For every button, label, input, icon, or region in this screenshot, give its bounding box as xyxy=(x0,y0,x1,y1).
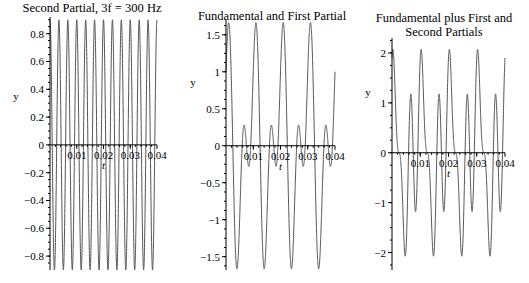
x-tick-label: 0.03 xyxy=(298,150,318,162)
charts-figure: Second Partial, 3f = 300 Hz−0.8−0.6−0.4−… xyxy=(0,0,529,283)
y-axis-label: y xyxy=(13,90,19,102)
y-tick-label: 0 xyxy=(381,147,387,159)
x-tick-label: 0.04 xyxy=(147,149,167,161)
chart-title: Fundamental and First Partial xyxy=(198,9,347,23)
y-tick-label: 0 xyxy=(215,140,221,152)
y-tick-label: −0.2 xyxy=(24,167,44,179)
y-tick-label: −0.8 xyxy=(24,250,44,262)
chart-title: Second Partials xyxy=(405,25,483,39)
y-tick-label: 1 xyxy=(215,66,221,78)
y-tick-label: −1.5 xyxy=(200,251,220,263)
x-tick-label: 0.03 xyxy=(467,157,487,169)
y-tick-label: −1 xyxy=(208,214,220,226)
chart-title: Second Partial, 3f = 300 Hz xyxy=(23,1,162,15)
chart-title: Fundamental plus First and xyxy=(376,11,513,25)
y-tick-label: 0 xyxy=(39,139,45,151)
x-tick-label: 0.03 xyxy=(121,149,141,161)
y-tick-label: 0.5 xyxy=(206,103,220,115)
y-tick-label: 0.4 xyxy=(30,83,44,95)
y-tick-label: 0.6 xyxy=(30,55,44,67)
x-tick-label: 0.01 xyxy=(67,149,86,161)
y-axis-label: y xyxy=(190,76,196,88)
y-tick-label: −2 xyxy=(374,247,386,259)
y-tick-label: −1 xyxy=(374,197,386,209)
x-tick-label: 0.01 xyxy=(244,150,263,162)
y-tick-label: 0.8 xyxy=(30,28,44,40)
y-tick-label: 1 xyxy=(381,97,387,109)
x-tick-label: 0.01 xyxy=(411,157,430,169)
y-tick-label: −0.5 xyxy=(200,177,220,189)
x-tick-label: 0.04 xyxy=(325,150,345,162)
y-tick-label: −0.6 xyxy=(24,222,44,234)
y-axis-label: y xyxy=(365,86,371,98)
y-tick-label: 0.2 xyxy=(30,111,44,123)
y-tick-label: −0.4 xyxy=(24,194,44,206)
y-tick-label: 1.5 xyxy=(206,29,220,41)
x-tick-label: 0.04 xyxy=(495,157,515,169)
y-tick-label: 2 xyxy=(381,47,387,59)
